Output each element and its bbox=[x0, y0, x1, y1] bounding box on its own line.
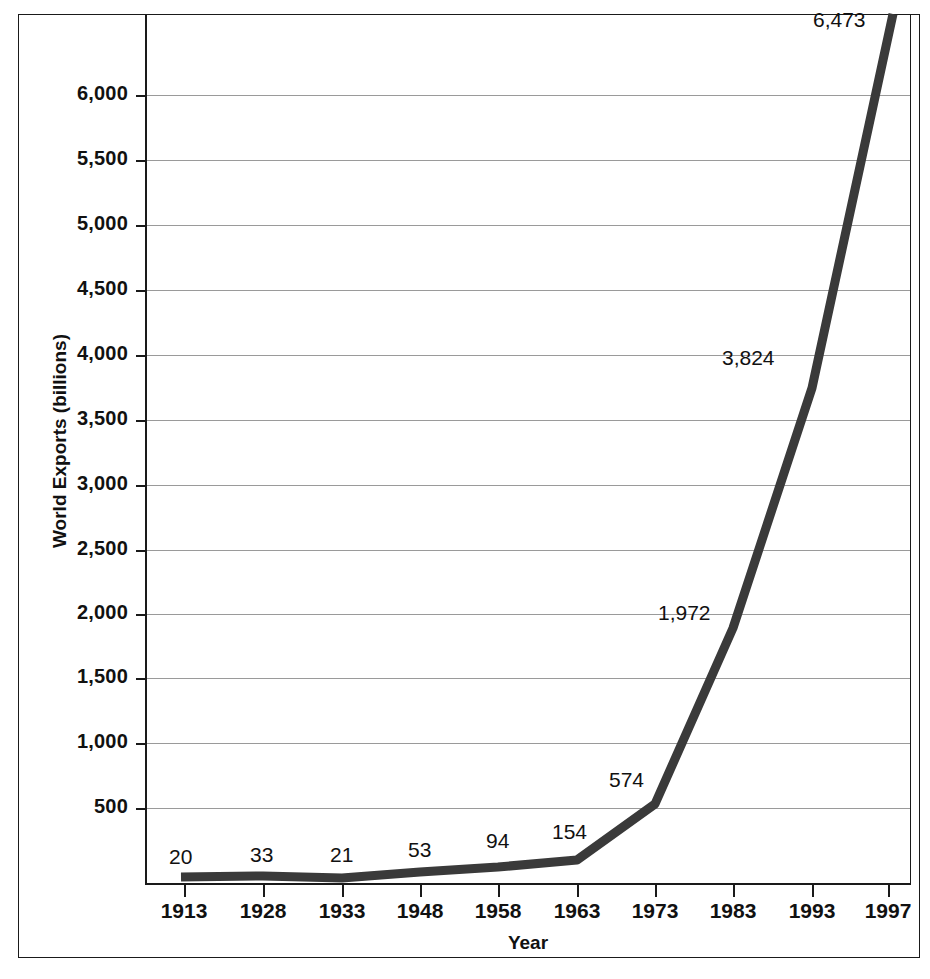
x-tick-mark bbox=[577, 885, 579, 897]
x-tick-mark bbox=[812, 885, 814, 897]
plot-area bbox=[145, 14, 911, 885]
data-point-label: 154 bbox=[552, 820, 587, 844]
y-tick-mark bbox=[136, 290, 145, 292]
x-tick-label: 1958 bbox=[453, 899, 543, 923]
x-axis-title: Year bbox=[145, 932, 911, 954]
data-point-label: 21 bbox=[330, 843, 353, 867]
data-point-label: 1,972 bbox=[658, 601, 711, 625]
x-tick-label: 1963 bbox=[532, 899, 622, 923]
y-tick-mark bbox=[136, 225, 145, 227]
x-tick-mark bbox=[888, 885, 890, 897]
y-tick-mark bbox=[136, 808, 145, 810]
x-tick-label: 1973 bbox=[610, 899, 700, 923]
x-tick-label: 1913 bbox=[139, 899, 229, 923]
x-tick-mark bbox=[498, 885, 500, 897]
x-tick-mark bbox=[342, 885, 344, 897]
x-tick-label: 1948 bbox=[375, 899, 465, 923]
data-point-label: 6,473 bbox=[813, 8, 866, 32]
y-tick-mark bbox=[136, 160, 145, 162]
y-tick-label: 500 bbox=[8, 795, 128, 818]
data-point-label: 94 bbox=[486, 829, 509, 853]
x-tick-label: 1928 bbox=[218, 899, 308, 923]
x-tick-label: 1983 bbox=[688, 899, 778, 923]
data-point-label: 574 bbox=[609, 768, 644, 792]
data-point-label: 20 bbox=[169, 845, 192, 869]
x-tick-mark bbox=[655, 885, 657, 897]
chart-figure: 500 1,000 1,500 2,000 2,500 3,000 3,500 … bbox=[0, 0, 930, 979]
data-point-label: 53 bbox=[408, 838, 431, 862]
x-tick-label: 1997 bbox=[843, 899, 930, 923]
y-tick-mark bbox=[136, 678, 145, 680]
y-tick-mark bbox=[136, 95, 145, 97]
y-tick-mark bbox=[136, 743, 145, 745]
x-tick-mark bbox=[263, 885, 265, 897]
data-point-label: 33 bbox=[250, 843, 273, 867]
y-tick-label: 6,000 bbox=[8, 82, 128, 105]
y-tick-mark bbox=[136, 420, 145, 422]
y-tick-mark bbox=[136, 355, 145, 357]
y-tick-label: 5,500 bbox=[8, 147, 128, 170]
x-tick-label: 1933 bbox=[297, 899, 387, 923]
y-tick-label: 1,500 bbox=[8, 665, 128, 688]
x-tick-mark bbox=[733, 885, 735, 897]
x-tick-mark bbox=[420, 885, 422, 897]
data-point-label: 3,824 bbox=[722, 346, 775, 370]
y-axis-title: World Exports (billions) bbox=[49, 231, 71, 651]
y-tick-mark bbox=[136, 614, 145, 616]
x-tick-mark bbox=[184, 885, 186, 897]
y-tick-mark bbox=[136, 550, 145, 552]
y-tick-mark bbox=[136, 485, 145, 487]
y-tick-label: 1,000 bbox=[8, 730, 128, 753]
